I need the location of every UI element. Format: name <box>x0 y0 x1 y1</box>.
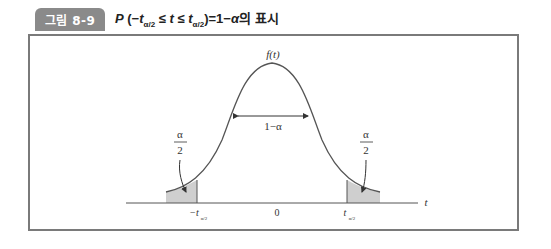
left-tail-label-numerator: α <box>177 128 183 140</box>
tick-left-subscript: α/2 <box>201 216 208 221</box>
right-tail-label-denominator: 2 <box>363 144 369 156</box>
tick-right-subscript: α/2 <box>349 216 356 221</box>
axis-label: t <box>424 196 428 208</box>
t-distribution-diagram: f(t) 1−α α 2 α 2 t −t α/2 0 t α/2 <box>0 0 551 249</box>
left-tail-label-denominator: 2 <box>177 144 183 156</box>
curve-label: f(t) <box>266 48 280 61</box>
tick-right-label: t <box>344 207 347 218</box>
tick-left-label: −t <box>189 207 199 218</box>
center-area-label: 1−α <box>264 120 282 132</box>
right-tail-label-numerator: α <box>363 128 369 140</box>
tick-center-label: 0 <box>275 207 280 218</box>
